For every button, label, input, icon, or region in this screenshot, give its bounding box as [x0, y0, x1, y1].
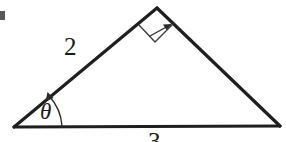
triangle-figure: 2 3 θ	[0, 0, 286, 142]
angle-label-theta: θ	[40, 100, 51, 123]
triangle-side-right	[157, 8, 280, 126]
side-label-bottom: 3	[148, 129, 161, 142]
triangle-side-bottom	[14, 126, 280, 127]
side-label-left: 2	[64, 34, 77, 59]
triangle-side-left	[14, 8, 157, 127]
scan-artifact-speck	[0, 11, 5, 20]
